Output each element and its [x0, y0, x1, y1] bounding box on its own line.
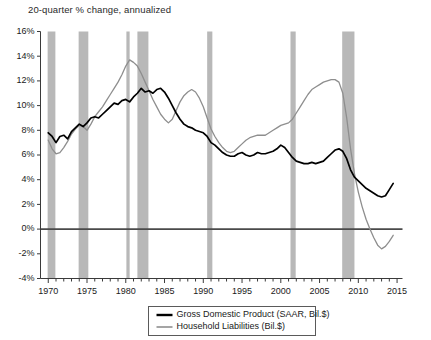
x-tick-label: 1980 [116, 286, 136, 296]
legend-label-gdp: Gross Domestic Product (SAAR, Bil.$) [177, 309, 330, 319]
y-tick-label: 2% [21, 199, 34, 209]
x-tick-label: 2015 [387, 286, 407, 296]
y-tick-label: 16% [16, 26, 34, 36]
chart-plot-area: -4%-2%0%2%4%6%8%10%12%14%16% 19701975198… [0, 0, 431, 340]
x-tick-label: 2010 [348, 286, 368, 296]
y-tick-label: 8% [21, 125, 34, 135]
x-tick-label: 1990 [193, 286, 213, 296]
y-tick-label: 14% [16, 51, 34, 61]
series-line-gdp [48, 88, 393, 197]
x-axis-ticks: 1970197519801985199019952000200520102015 [38, 279, 407, 296]
recession-band [207, 32, 212, 279]
x-tick-label: 2000 [271, 286, 291, 296]
recession-bands-group [48, 32, 355, 279]
recession-band [79, 32, 89, 279]
legend-label-household-liabilities: Household Liabilities (Bil.$) [177, 321, 286, 331]
x-tick-label: 1995 [232, 286, 252, 296]
x-tick-label: 1975 [77, 286, 97, 296]
chart-container: 20-quarter % change, annualized -4%-2%0%… [0, 0, 431, 340]
y-tick-label: 6% [21, 149, 34, 159]
y-tick-label: -4% [18, 273, 34, 283]
y-tick-label: 4% [21, 174, 34, 184]
y-tick-label: 0% [21, 223, 34, 233]
series-line-household-liabilities [48, 60, 393, 249]
y-tick-label: 12% [16, 75, 34, 85]
x-tick-label: 1970 [38, 286, 58, 296]
y-tick-label: -2% [18, 248, 34, 258]
x-tick-label: 2005 [310, 286, 330, 296]
recession-band [48, 32, 56, 279]
recession-band [126, 32, 129, 279]
y-tick-label: 10% [16, 100, 34, 110]
chart-legend: Gross Domestic Product (SAAR, Bil.$)Hous… [149, 307, 330, 336]
y-axis-ticks: -4%-2%0%2%4%6%8%10%12%14%16% [16, 26, 40, 283]
data-series-group [48, 60, 393, 249]
x-tick-label: 1985 [155, 286, 175, 296]
